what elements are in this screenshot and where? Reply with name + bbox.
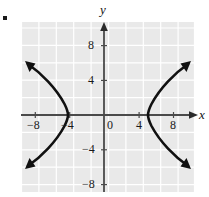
y-axis-label: y xyxy=(100,3,106,16)
y-tick-label-8: 8 xyxy=(88,39,94,51)
y-tick-label-neg8: −8 xyxy=(82,178,95,190)
curve-arrowheads xyxy=(25,61,191,169)
x-tick-label-neg4: −4 xyxy=(61,119,74,131)
x-axis-label: x xyxy=(199,108,205,121)
y-tick-label-4: 4 xyxy=(88,74,94,86)
x-tick-label-8: 8 xyxy=(170,119,176,131)
hyperbola-curve xyxy=(0,0,209,197)
x-tick-label-neg8: −8 xyxy=(27,119,40,131)
x-tick-label-4: 4 xyxy=(136,119,142,131)
x-tick-label-0: 0 xyxy=(107,119,113,131)
graph-figure: y x 8 4 −4 −8 −8 −4 0 4 8 xyxy=(0,0,209,197)
y-tick-label-neg4: −4 xyxy=(82,143,95,155)
